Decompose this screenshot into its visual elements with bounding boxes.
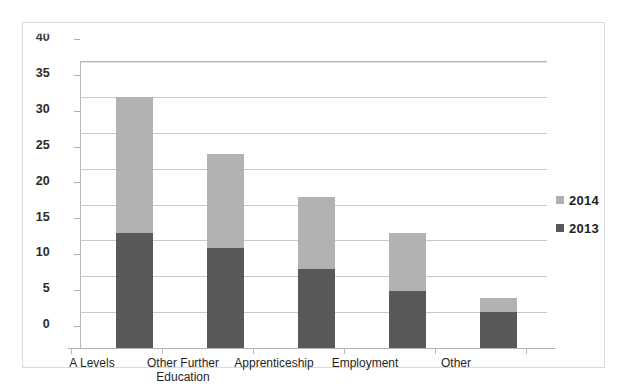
x-axis-line bbox=[68, 348, 555, 349]
x-tick-3 bbox=[344, 348, 345, 354]
y-label-20: 20 bbox=[22, 175, 50, 188]
chart-legend: 2014 2013 bbox=[556, 193, 622, 249]
chart-frame: A Levels Other FurtherEducation Apprenti… bbox=[22, 22, 605, 368]
bar-a-levels-segment-2013[interactable] bbox=[116, 233, 153, 348]
bar-a-levels[interactable] bbox=[116, 97, 153, 348]
legend-label-2014: 2014 bbox=[569, 193, 599, 208]
bar-other-further-education-segment-2014[interactable] bbox=[207, 154, 244, 247]
bar-other-segment-2013[interactable] bbox=[480, 312, 517, 348]
bar-other-further-education-segment-2013[interactable] bbox=[207, 248, 244, 348]
legend-swatch-2013-icon bbox=[556, 224, 564, 232]
x-tick-5 bbox=[526, 348, 527, 354]
legend-item-2013[interactable]: 2013 bbox=[556, 221, 622, 235]
y-axis-labels: 40 35 30 25 20 15 10 5 0 bbox=[14, 0, 50, 390]
y-label-30: 30 bbox=[22, 103, 50, 116]
x-tick-1 bbox=[162, 348, 163, 354]
bar-other-segment-2014[interactable] bbox=[480, 298, 517, 312]
legend-item-2014[interactable]: 2014 bbox=[556, 193, 622, 207]
gridline-40 bbox=[80, 61, 547, 62]
y-tick-mark-40 bbox=[74, 39, 80, 40]
legend-swatch-2014-icon bbox=[556, 196, 564, 204]
x-label-other: Other bbox=[401, 357, 511, 371]
bar-other[interactable] bbox=[480, 298, 517, 348]
y-label-10: 10 bbox=[22, 246, 50, 259]
y-label-0: 0 bbox=[22, 318, 50, 331]
bar-apprenticeship[interactable] bbox=[298, 197, 335, 348]
bar-employment-segment-2014[interactable] bbox=[389, 233, 426, 290]
legend-label-2013: 2013 bbox=[569, 221, 599, 236]
x-tick-2 bbox=[253, 348, 254, 354]
y-label-25: 25 bbox=[22, 139, 50, 152]
x-tick-0 bbox=[71, 348, 72, 354]
plot-area bbox=[80, 61, 547, 348]
y-label-40: 40 bbox=[22, 31, 50, 44]
bar-a-levels-segment-2014[interactable] bbox=[116, 97, 153, 233]
bar-apprenticeship-segment-2013[interactable] bbox=[298, 269, 335, 348]
y-label-5: 5 bbox=[22, 282, 50, 295]
bar-apprenticeship-segment-2014[interactable] bbox=[298, 197, 335, 269]
y-label-15: 15 bbox=[22, 211, 50, 224]
bar-employment[interactable] bbox=[389, 233, 426, 348]
bar-other-further-education[interactable] bbox=[207, 154, 244, 348]
bar-employment-segment-2013[interactable] bbox=[389, 291, 426, 348]
x-tick-4 bbox=[435, 348, 436, 354]
y-label-35: 35 bbox=[22, 67, 50, 80]
